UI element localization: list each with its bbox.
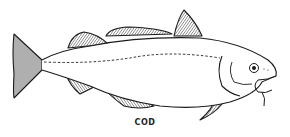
- dorsal-fin-2: [106, 27, 172, 36]
- body-outline: [42, 38, 276, 108]
- dorsal-fin-3: [174, 10, 202, 36]
- fish-drawing: [0, 0, 290, 137]
- barbel: [262, 92, 265, 106]
- tail-fin: [13, 34, 42, 98]
- cod-illustration: COD: [0, 0, 290, 137]
- caption-label: COD: [0, 118, 290, 127]
